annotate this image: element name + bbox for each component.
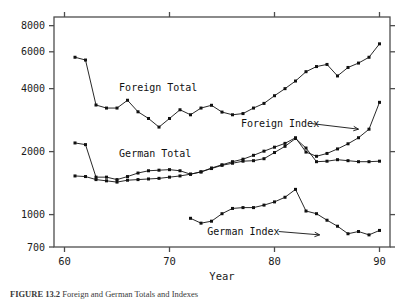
data-point <box>305 210 308 213</box>
data-point <box>126 179 129 182</box>
data-point <box>84 143 87 146</box>
data-point <box>221 163 224 166</box>
figure-caption-label: FIGURE 13.2 <box>10 289 60 299</box>
data-point <box>179 108 182 111</box>
line-chart: 7001000200040006000800060708090YearForei… <box>0 0 420 285</box>
data-point <box>147 169 150 172</box>
data-point <box>284 196 287 199</box>
data-point <box>284 145 287 148</box>
data-point <box>210 220 213 223</box>
data-point <box>263 102 266 105</box>
data-point <box>315 212 318 215</box>
x-tick-label: 60 <box>58 255 71 267</box>
data-point <box>336 147 339 150</box>
data-point <box>252 206 255 209</box>
data-point <box>74 56 77 59</box>
foreign-index-label-arrow <box>312 124 358 130</box>
data-point <box>326 152 329 155</box>
data-point <box>158 169 161 172</box>
data-point <box>294 80 297 83</box>
data-point <box>137 110 140 113</box>
data-point <box>242 158 245 161</box>
x-tick-label: 80 <box>268 255 281 267</box>
foreign-total-label: Foreign Total <box>119 82 197 93</box>
german-index-label-arrow <box>279 232 320 235</box>
data-point <box>357 160 360 163</box>
y-tick-label: 6000 <box>21 46 45 57</box>
data-point <box>252 107 255 110</box>
data-point <box>368 160 371 163</box>
data-point <box>158 126 161 129</box>
y-axis: 70010002000400060008000 <box>21 20 395 252</box>
data-point <box>231 207 234 210</box>
data-point <box>210 104 213 107</box>
data-point <box>378 160 381 163</box>
series-german-total <box>74 137 382 181</box>
data-point <box>305 147 308 150</box>
data-point <box>326 160 329 163</box>
data-point <box>210 167 213 170</box>
data-point <box>168 168 171 171</box>
data-point <box>347 66 350 69</box>
data-point <box>179 169 182 172</box>
y-tick-label: 700 <box>27 242 45 253</box>
data-point <box>105 179 108 182</box>
data-point <box>200 222 203 225</box>
data-point <box>315 160 318 163</box>
data-point <box>116 107 119 110</box>
data-point <box>357 136 360 139</box>
data-point <box>200 170 203 173</box>
data-point <box>294 188 297 191</box>
data-point <box>147 177 150 180</box>
data-point <box>284 142 287 145</box>
data-point <box>137 178 140 181</box>
data-point <box>263 157 266 160</box>
data-point <box>273 151 276 154</box>
x-tick-label: 90 <box>373 255 386 267</box>
data-point <box>200 107 203 110</box>
data-point <box>168 176 171 179</box>
annotations: Foreign TotalGerman TotalForeign IndexGe… <box>119 82 358 237</box>
data-point <box>168 117 171 120</box>
data-point <box>158 177 161 180</box>
data-point <box>273 146 276 149</box>
data-point <box>221 111 224 114</box>
data-point <box>326 219 329 222</box>
foreign-index-label: Foreign Index <box>241 118 319 129</box>
data-point <box>137 172 140 175</box>
data-point <box>242 206 245 209</box>
data-point <box>126 175 129 178</box>
data-point <box>315 155 318 158</box>
data-point <box>357 62 360 65</box>
data-point <box>273 200 276 203</box>
data-point <box>378 101 381 104</box>
data-point <box>95 104 98 107</box>
data-point <box>126 99 129 102</box>
data-point <box>378 42 381 45</box>
data-point <box>105 107 108 110</box>
data-point <box>357 230 360 233</box>
data-point <box>336 158 339 161</box>
data-point <box>252 154 255 157</box>
data-point <box>305 70 308 73</box>
data-point <box>84 175 87 178</box>
data-point <box>147 117 150 120</box>
data-point <box>284 87 287 90</box>
data-point <box>74 141 77 144</box>
data-point <box>368 233 371 236</box>
data-point <box>74 174 77 177</box>
data-point <box>84 59 87 62</box>
y-tick-label: 4000 <box>21 83 45 94</box>
data-point <box>263 150 266 153</box>
data-point <box>231 113 234 116</box>
data-point <box>179 174 182 177</box>
data-point <box>116 181 119 184</box>
figure-container: 7001000200040006000800060708090YearForei… <box>0 0 420 300</box>
data-point <box>273 94 276 97</box>
data-point <box>326 63 329 66</box>
data-point <box>242 112 245 115</box>
data-point <box>221 212 224 215</box>
data-point <box>95 178 98 181</box>
x-axis-title: Year <box>209 270 234 282</box>
data-point <box>378 229 381 232</box>
